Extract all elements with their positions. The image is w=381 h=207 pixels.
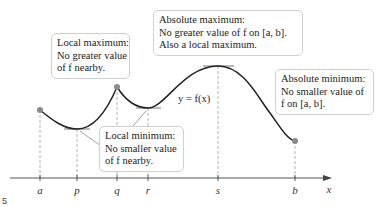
tick-label-a: a [37,184,43,196]
tick-label-r: r [146,184,150,196]
figure-mark: 5 [2,196,7,206]
callout-text: No greater value of f on [a, b]. [159,27,297,40]
callout-text: of f nearby. [57,62,124,75]
tick-label-s: s [216,184,220,196]
callout-text: No greater value [57,50,124,63]
endpoint-a [37,107,43,113]
local-max-callout: Local maximum: No greater value of f nea… [51,33,130,79]
callout-text: f on [a, b]. [281,98,368,111]
tick-label-b: b [292,184,298,196]
curve-label: y = f(x) [178,93,210,104]
callout-title: Local minimum: [105,130,178,143]
axis-label-x: x [327,183,332,195]
axis-arrow-icon [323,175,332,181]
local-min-callout: Local minimum: No smaller value of f nea… [99,126,184,172]
callout-text: No smaller value [105,143,178,156]
local-max-point [114,84,120,90]
endpoint-b [292,138,298,144]
callout-title: Absolute minimum: [281,73,368,86]
callout-title: Absolute maximum: [159,14,297,27]
abs-min-callout: Absolute minimum: No smaller value of f … [275,69,374,115]
callout-text: of f nearby. [105,155,178,168]
abs-max-callout: Absolute maximum: No greater value of f … [153,10,303,56]
tick-label-q: q [114,184,120,196]
callout-text: Also a local maximum. [159,39,297,52]
callout-text: No smaller value of [281,86,368,99]
callout-title: Local maximum: [57,37,124,50]
tick-label-p: p [74,184,80,196]
